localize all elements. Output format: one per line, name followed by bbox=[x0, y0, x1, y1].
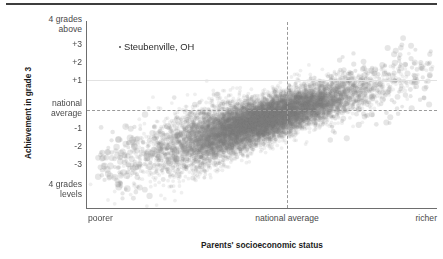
y-tick-label-plus-2: +2 bbox=[0, 58, 82, 68]
top-divider-rule bbox=[6, 3, 437, 5]
y-tick-label-4-above: 4 grades above bbox=[0, 15, 82, 34]
chart-figure: Achievement in grade 3 4 grades above +3… bbox=[0, 0, 443, 259]
dot-marker-icon bbox=[119, 46, 121, 48]
annotation-label: Steubenville, OH bbox=[124, 41, 194, 52]
x-tick-label-poorer: poorer bbox=[88, 213, 113, 223]
gridline-plus-one bbox=[87, 80, 437, 81]
y-tick-label-national-average: national average bbox=[0, 99, 82, 118]
x-axis-title: Parents' socioeconomic status bbox=[87, 240, 437, 250]
y-tick-label-4-levels: 4 grades levels bbox=[0, 180, 82, 199]
gridline-national-average-vertical bbox=[287, 22, 288, 208]
y-tick-label-minus-2: -2 bbox=[0, 142, 82, 152]
gridline-national-average-horizontal bbox=[87, 110, 437, 111]
y-tick-label-plus-1: +1 bbox=[0, 76, 82, 86]
x-axis-line bbox=[86, 208, 437, 209]
annotation-steubenville: Steubenville, OH bbox=[119, 41, 194, 52]
y-tick-label-minus-1: -1 bbox=[0, 124, 82, 134]
y-tick-label-minus-3: -3 bbox=[0, 160, 82, 170]
x-tick-label-richer: richer bbox=[416, 213, 438, 223]
x-tick-label-national-average: national average bbox=[255, 213, 319, 223]
y-tick-label-plus-3: +3 bbox=[0, 40, 82, 50]
